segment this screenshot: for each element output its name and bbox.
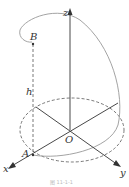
- x-arrow-icon: [8, 162, 16, 169]
- z-label: z: [62, 7, 69, 18]
- y-arrow-icon: [113, 160, 121, 167]
- y-label: y: [119, 167, 126, 178]
- point-b: [32, 43, 34, 45]
- point-b-label: B: [29, 31, 37, 42]
- point-a: [32, 154, 34, 156]
- figure-caption: 图 11-1-1: [50, 179, 73, 186]
- x-label: x: [3, 163, 9, 174]
- helix-diagram: z x y O A B h 图 11-1-1: [0, 0, 129, 187]
- height-label: h: [26, 86, 32, 97]
- point-a-label: A: [21, 148, 29, 159]
- origin-label: O: [65, 134, 73, 145]
